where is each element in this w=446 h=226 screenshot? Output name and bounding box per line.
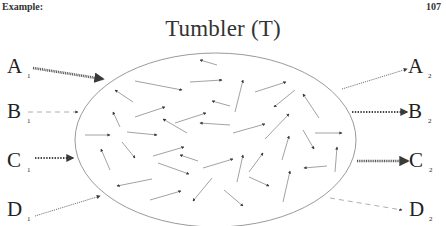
edge-arrows-group [28, 68, 408, 216]
input-arrow-a [33, 68, 103, 79]
output-label-c: C [409, 148, 423, 172]
particle-arrow [153, 147, 184, 156]
particle-arrow [233, 124, 265, 133]
internal-arrows-group [85, 60, 342, 206]
particle-arrow [265, 114, 289, 139]
output-arrow-d [330, 198, 402, 210]
particle-arrow [282, 136, 289, 160]
input-label-b: B [7, 99, 21, 123]
particle-arrow [158, 163, 189, 174]
output-subscript-d: 2 [429, 215, 433, 223]
input-arrow-d [35, 196, 100, 216]
particle-arrow [150, 191, 181, 200]
input-subscript-c: 1 [27, 166, 31, 174]
particle-arrow [122, 142, 135, 158]
particle-arrow [175, 113, 206, 123]
particle-arrow [193, 178, 212, 201]
input-subscript-a: 1 [27, 72, 31, 80]
particle-arrow [304, 166, 327, 168]
output-subscript-b: 2 [428, 117, 432, 125]
particle-arrow [190, 80, 222, 82]
particle-arrow [163, 119, 187, 133]
output-label-a: A [408, 54, 424, 78]
particle-arrow [283, 171, 290, 202]
particle-arrow [249, 153, 263, 172]
particle-arrow [335, 147, 337, 172]
particle-arrow [303, 94, 319, 118]
input-label-a: A [7, 54, 23, 78]
particle-arrow [115, 90, 133, 102]
particle-arrow [117, 179, 152, 186]
particle-arrow [135, 107, 165, 117]
particle-arrow [212, 101, 230, 106]
particle-arrow [200, 60, 217, 65]
tumbler-diagram: A1B1C1D1A2B2C2D2 [0, 0, 446, 226]
labels-group: A1B1C1D1A2B2C2D2 [7, 54, 433, 223]
input-subscript-b: 1 [27, 117, 31, 125]
particle-arrow [235, 80, 243, 112]
particle-arrow [249, 177, 269, 186]
input-label-d: D [7, 197, 22, 221]
particle-arrow [135, 81, 182, 90]
particle-arrow [274, 90, 295, 107]
particle-arrow [180, 155, 198, 161]
tumbler-ellipse [75, 53, 356, 226]
input-subscript-d: 1 [27, 215, 31, 223]
particle-arrow [203, 159, 233, 168]
particle-arrow [224, 190, 243, 206]
particle-arrow [255, 82, 286, 92]
particle-arrow [113, 112, 120, 127]
particle-arrow [237, 155, 243, 182]
particle-arrow [303, 130, 314, 149]
output-label-b: B [408, 99, 422, 123]
output-subscript-c: 2 [429, 166, 433, 174]
particle-arrow [101, 149, 110, 170]
output-arrow-a [342, 69, 407, 89]
particle-arrow [200, 123, 230, 125]
input-label-c: C [7, 148, 21, 172]
particle-arrow [127, 132, 157, 135]
output-label-d: D [409, 197, 424, 221]
output-subscript-a: 2 [428, 72, 432, 80]
